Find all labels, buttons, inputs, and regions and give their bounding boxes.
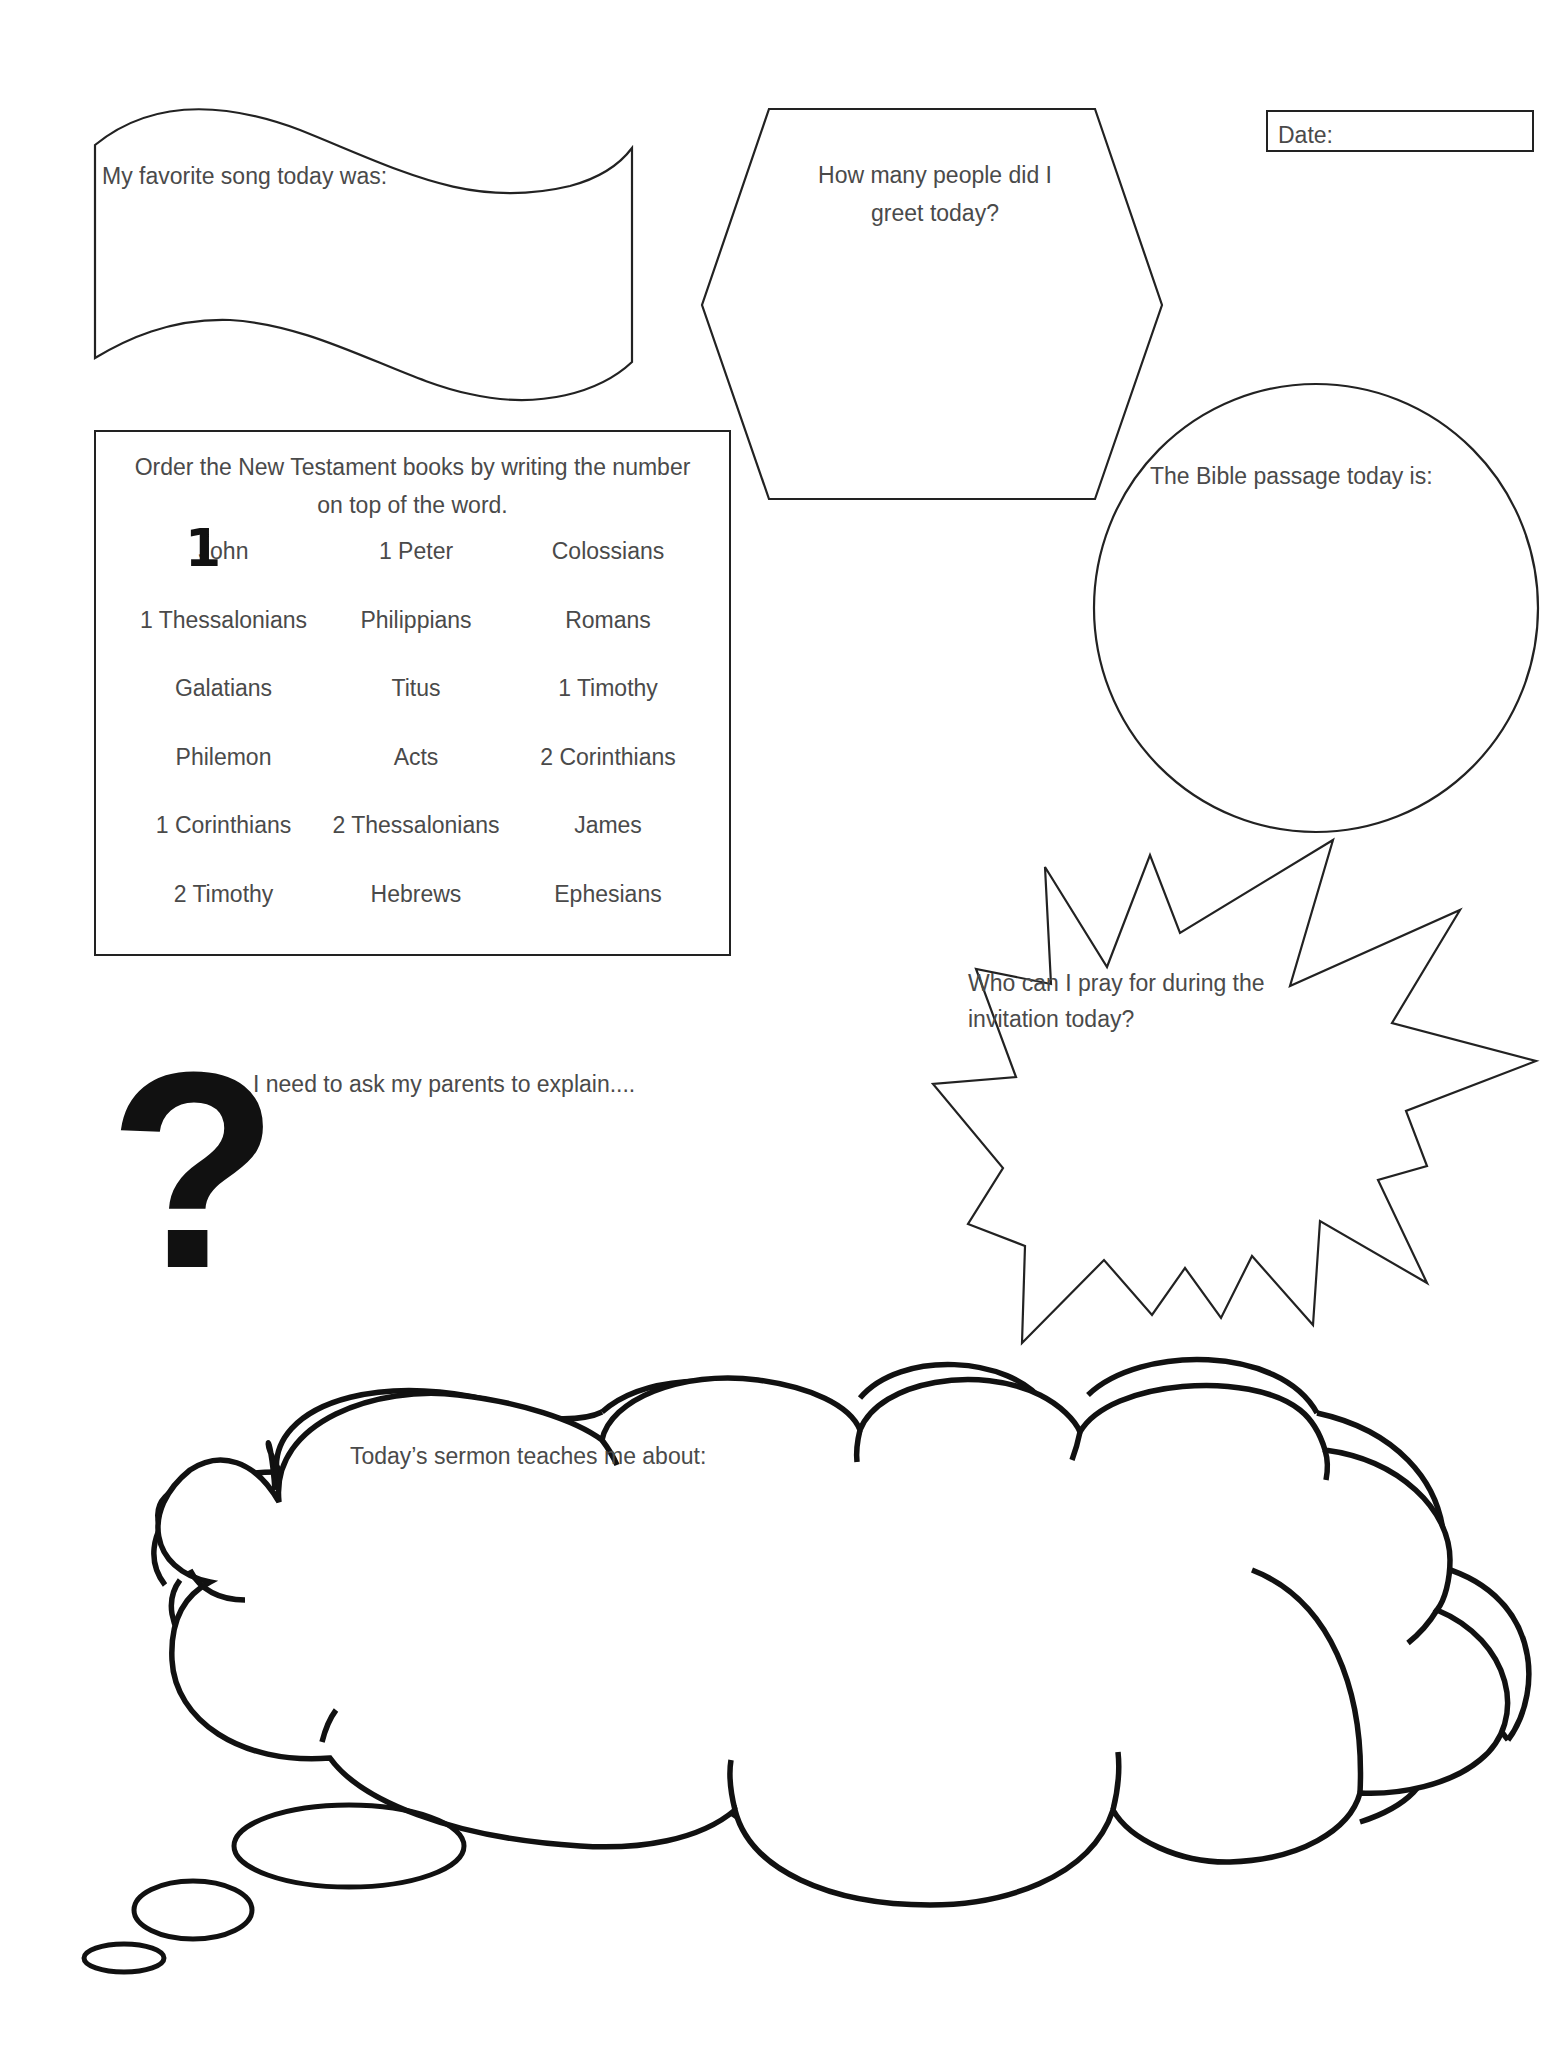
sermon-answer-area[interactable] xyxy=(300,1490,1350,1790)
book-1-peter[interactable]: 1 Peter xyxy=(320,538,512,607)
pray-prompt-line1: Who can I pray for during the xyxy=(968,972,1265,995)
nt-book-grid: John 1 Peter Colossians 1 Thessalonians … xyxy=(96,538,729,949)
thought-bubble-large xyxy=(234,1805,464,1887)
ask-parents-prompt: I need to ask my parents to explain.... xyxy=(253,1073,635,1096)
greet-prompt-line2: greet today? xyxy=(780,202,1090,225)
nt-instruction-line1: Order the New Testament books by writing… xyxy=(96,448,729,486)
pray-prompt-line2: invitation today? xyxy=(968,1008,1134,1031)
pray-answer-area[interactable] xyxy=(1000,1045,1380,1245)
sermon-prompt: Today’s sermon teaches me about: xyxy=(350,1445,706,1468)
book-philemon[interactable]: Philemon xyxy=(127,744,320,813)
greet-answer-area[interactable] xyxy=(760,240,1100,480)
book-galatians[interactable]: Galatians xyxy=(127,675,320,744)
nt-instructions: Order the New Testament books by writing… xyxy=(96,448,729,524)
nt-order-box: Order the New Testament books by writing… xyxy=(94,430,731,956)
book-2-thessalonians[interactable]: 2 Thessalonians xyxy=(320,812,512,881)
book-1-thessalonians[interactable]: 1 Thessalonians xyxy=(127,607,320,676)
book-2-timothy[interactable]: 2 Timothy xyxy=(127,881,320,950)
song-prompt: My favorite song today was: xyxy=(102,165,387,188)
book-titus[interactable]: Titus xyxy=(320,675,512,744)
book-john[interactable]: John xyxy=(127,538,320,607)
book-colossians[interactable]: Colossians xyxy=(512,538,704,607)
book-2-corinthians[interactable]: 2 Corinthians xyxy=(512,744,704,813)
book-acts[interactable]: Acts xyxy=(320,744,512,813)
date-field[interactable]: Date: xyxy=(1266,110,1534,152)
date-label: Date: xyxy=(1278,122,1333,149)
bible-passage-answer-area[interactable] xyxy=(1130,510,1500,790)
song-answer-area[interactable] xyxy=(100,200,625,350)
thought-bubble-medium xyxy=(134,1881,252,1939)
book-ephesians[interactable]: Ephesians xyxy=(512,881,704,950)
greet-prompt-line1: How many people did I xyxy=(780,164,1090,187)
bible-passage-prompt: The Bible passage today is: xyxy=(1150,465,1433,488)
book-hebrews[interactable]: Hebrews xyxy=(320,881,512,950)
book-philippians[interactable]: Philippians xyxy=(320,607,512,676)
book-1-corinthians[interactable]: 1 Corinthians xyxy=(127,812,320,881)
ask-parents-answer-area[interactable] xyxy=(250,1110,710,1290)
thought-bubble-small xyxy=(84,1944,164,1972)
book-james[interactable]: James xyxy=(512,812,704,881)
book-romans[interactable]: Romans xyxy=(512,607,704,676)
handwritten-number-mark: 1 xyxy=(185,522,221,574)
book-1-timothy[interactable]: 1 Timothy xyxy=(512,675,704,744)
